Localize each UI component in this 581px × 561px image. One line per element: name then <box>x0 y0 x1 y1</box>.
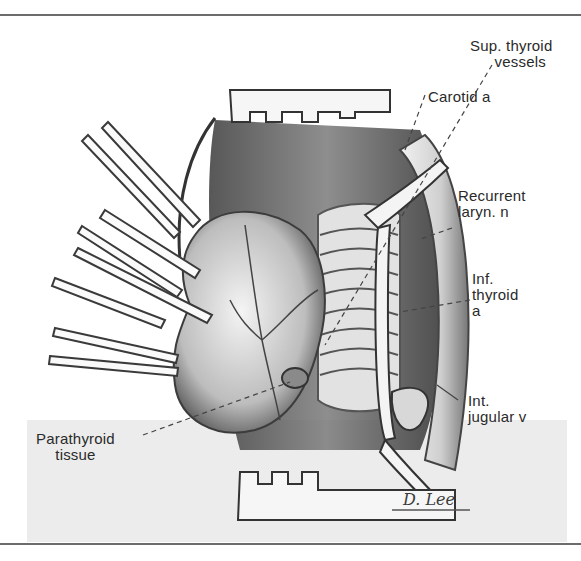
label-line: Sup. thyroid <box>470 38 552 54</box>
label-line: Inf. <box>472 271 518 287</box>
label-line: a <box>472 303 518 319</box>
label-sup-thyroid-vessels: Sup. thyroid vessels <box>470 38 552 70</box>
label-line: Int. <box>468 393 527 409</box>
label-line: jugular v <box>468 409 527 425</box>
label-carotid-a: Carotid a <box>428 89 491 105</box>
upper-retractor <box>230 90 390 122</box>
label-int-jugular-v: Int. jugular v <box>468 393 527 425</box>
label-parathyroid-tissue: Parathyroid tissue <box>36 431 115 463</box>
label-line: Carotid a <box>428 89 491 105</box>
parathyroid-gland <box>282 368 308 388</box>
label-line: vessels <box>470 54 552 70</box>
bottom-rule <box>0 543 581 545</box>
label-line: laryn. n <box>458 204 526 220</box>
label-recurrent-laryn-n: Recurrent laryn. n <box>458 188 526 220</box>
artist-signature: D. Lee <box>403 490 455 509</box>
label-inf-thyroid-a: Inf. thyroid a <box>472 271 518 319</box>
label-line: Recurrent <box>458 188 526 204</box>
label-line: Parathyroid <box>36 431 115 447</box>
label-line: tissue <box>36 447 115 463</box>
label-line: thyroid <box>472 287 518 303</box>
